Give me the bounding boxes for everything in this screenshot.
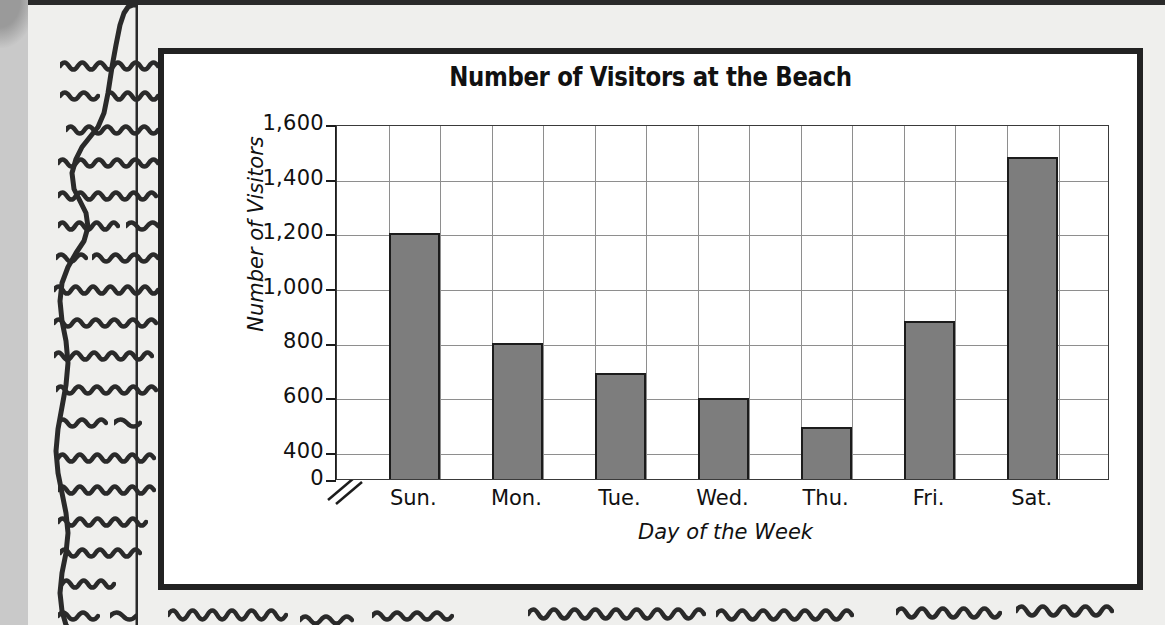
- scribble-text-line: [58, 482, 156, 498]
- plot-area-wrapper: [336, 125, 1109, 480]
- bar-tue: [595, 373, 647, 480]
- y-tick-mark: [326, 180, 336, 182]
- y-tick-label: 400: [232, 439, 324, 463]
- gridline-horizontal: [337, 235, 1108, 236]
- x-tick-label-wed: Wed.: [673, 486, 773, 510]
- y-tick-label: 0: [232, 466, 324, 490]
- bar-fri: [904, 321, 956, 479]
- scribble-text-line: [528, 605, 706, 623]
- scribble-text-line: [92, 250, 160, 266]
- x-tick-label-sat: Sat.: [982, 486, 1082, 510]
- y-tick-label: 600: [232, 384, 324, 408]
- scribble-text-line: [372, 608, 454, 624]
- scribble-text-line: [58, 450, 156, 466]
- y-tick-mark: [326, 453, 336, 455]
- y-tick-mark: [326, 125, 336, 127]
- scribble-text-line: [58, 514, 148, 530]
- gridline-vertical: [852, 126, 853, 479]
- gridline-horizontal: [337, 181, 1108, 182]
- scribble-text-line: [56, 250, 88, 266]
- scribble-text-line: [110, 608, 138, 624]
- y-tick-mark: [326, 234, 336, 236]
- gridline-vertical: [440, 126, 441, 479]
- gridline-vertical: [646, 126, 647, 479]
- scribble-text-line: [60, 58, 160, 74]
- chart-card: Number of Visitors at the Beach 04006008…: [158, 48, 1143, 590]
- scribble-text-line: [66, 122, 160, 138]
- scribble-text-line: [1016, 602, 1114, 620]
- scribble-text-line: [62, 576, 116, 592]
- bar-wed: [698, 398, 750, 479]
- y-tick-mark: [326, 344, 336, 346]
- x-tick-label-sun: Sun.: [363, 486, 463, 510]
- y-tick-mark: [326, 289, 336, 291]
- y-axis-tick-labels: 04006008001,0001,2001,4001,600: [224, 54, 324, 584]
- gridline-vertical: [801, 126, 802, 479]
- bar-thu: [801, 427, 853, 479]
- bar-sun: [389, 233, 441, 479]
- scribble-text-line: [168, 606, 288, 624]
- scribble-text-line: [300, 612, 354, 625]
- x-tick-label-tue: Tue.: [569, 486, 669, 510]
- scribble-text-line: [54, 282, 160, 298]
- gridline-vertical: [543, 126, 544, 479]
- scribble-text-line: [60, 545, 142, 561]
- scribble-text-line: [60, 88, 100, 104]
- gridline-horizontal: [337, 345, 1108, 346]
- gridline-vertical: [749, 126, 750, 479]
- x-axis-title: Day of the Week: [164, 520, 1137, 544]
- bar-sat: [1007, 157, 1059, 479]
- scribble-text-line: [896, 604, 1002, 622]
- scribble-text-line: [54, 315, 158, 331]
- scribble-text-line: [58, 415, 108, 431]
- scribble-text-line: [58, 188, 158, 204]
- y-axis-title: Number of Visitors: [244, 94, 268, 374]
- scribble-text-line: [114, 415, 142, 431]
- gridline-vertical: [955, 126, 956, 479]
- y-tick-mark: [326, 398, 336, 400]
- scribble-text-line: [54, 348, 154, 364]
- gridline-horizontal: [337, 290, 1108, 291]
- scribble-text-line: [716, 606, 854, 624]
- gridline-vertical: [1059, 126, 1060, 479]
- scribble-text-line: [106, 88, 160, 104]
- plot-area: [336, 125, 1109, 480]
- scribble-text-line: [126, 218, 160, 234]
- scribble-text-line: [58, 218, 120, 234]
- scribble-text-line: [56, 382, 158, 398]
- x-tick-label-fri: Fri.: [879, 486, 979, 510]
- x-tick-label-mon: Mon.: [466, 486, 566, 510]
- scribble-text-line: [58, 608, 100, 624]
- x-tick-label-thu: Thu.: [776, 486, 876, 510]
- scribble-text-line: [58, 155, 160, 171]
- bar-mon: [492, 343, 544, 480]
- chart-title: Number of Visitors at the Beach: [222, 62, 1078, 92]
- y-tick-mark: [326, 480, 336, 482]
